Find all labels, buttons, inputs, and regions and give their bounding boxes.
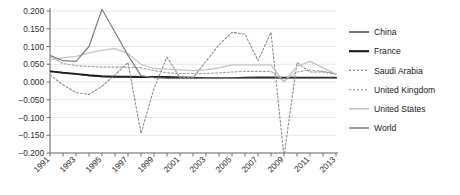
y-axis-tick-label: −0.150 [18,130,44,140]
legend-label-united-states: United States [374,104,426,114]
series-line-saudi-arabia [50,32,336,156]
x-axis-tick-label: 2011 [292,154,312,174]
y-axis-tick-label: 0.200 [23,6,44,16]
legend-label-france: France [374,46,401,56]
chart-container: 0.2000.1500.1000.0500.000−0.050−0.100−0.… [0,0,460,195]
series-line-world [50,9,336,78]
x-axis-tick-label: 2005 [213,154,233,174]
y-axis-tick-label: −0.100 [18,113,44,123]
y-axis-labels: 0.2000.1500.1000.0500.000−0.050−0.100−0.… [18,6,44,158]
legend-label-saudi-arabia: Saudi Arabia [374,66,423,76]
chart-svg: 0.2000.1500.1000.0500.000−0.050−0.100−0.… [0,0,460,195]
x-axis-tick-label: 1993 [57,154,77,174]
y-axis-tick-label: 0.000 [23,77,44,87]
y-axis-tick-label: 0.050 [23,59,44,69]
y-axis-tick-label: −0.050 [18,95,44,105]
legend-label-china: China [374,27,397,37]
line-chart: 0.2000.1500.1000.0500.000−0.050−0.100−0.… [0,0,460,195]
y-axis-tick-label: 0.100 [23,42,44,52]
gridlines-group [50,11,336,153]
x-axis-labels: 1991199319951997199920012003200520072009… [31,154,337,174]
legend: ChinaFranceSaudi ArabiaUnited KingdomUni… [349,27,435,133]
x-axis-tick-label: 2013 [317,154,337,174]
y-axis-tick-label: −0.200 [18,148,44,158]
x-axis-tick-label: 2003 [187,154,207,174]
legend-label-world: World [374,123,397,133]
legend-label-united-kingdom: United Kingdom [374,85,435,95]
x-axis-tick-label: 2007 [239,154,259,174]
y-axis-tick-label: 0.150 [23,24,44,34]
x-axis-tick-label: 1999 [135,154,155,174]
x-axis-tick-label: 2009 [265,154,285,174]
data-series-group [50,9,336,156]
x-axis-tick-label: 2001 [161,154,181,174]
x-axis-tick-label: 1997 [109,154,129,174]
x-axis-tick-label: 1995 [83,154,103,174]
